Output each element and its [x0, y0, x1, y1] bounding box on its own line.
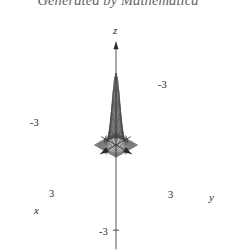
axis-label-y: y [209, 192, 214, 203]
tick-label-y-positive: 3 [168, 190, 173, 201]
tick-label-z-negative: -3 [99, 227, 108, 238]
tick-label-x-negative: -3 [30, 118, 39, 129]
figure-page: Generated by Mathematica z y x -3 3 -3 3… [0, 0, 236, 251]
axis-label-x: x [34, 205, 39, 216]
tick-label-x-positive: 3 [49, 189, 54, 200]
axis-label-z: z [113, 25, 117, 36]
tick-label-y-negative: -3 [158, 80, 167, 91]
